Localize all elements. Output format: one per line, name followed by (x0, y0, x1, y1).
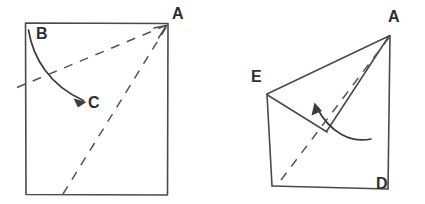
figure-root: A B C A E D (0, 0, 425, 204)
folded-outline-E-to-A (267, 36, 390, 95)
folded-outline-A-to-D (388, 36, 390, 189)
label-point-c-left: C (88, 95, 100, 111)
folded-outline-D-to-bottom-left (272, 186, 388, 189)
label-point-b-left: B (36, 26, 48, 42)
label-point-a-right: A (388, 9, 400, 25)
right-panel-folded-shape (267, 36, 390, 190)
folded-outline-bottom-left-to-E (267, 94, 272, 186)
flap-edge-E-to-tip (268, 95, 328, 132)
label-point-a-left: A (172, 6, 184, 22)
geometry-figure-svg (0, 0, 425, 204)
crease-line-lower-dashed (63, 26, 167, 194)
label-point-d-right: D (376, 176, 388, 192)
label-point-e-right: E (251, 69, 262, 85)
crease-line-dashed (281, 38, 389, 181)
